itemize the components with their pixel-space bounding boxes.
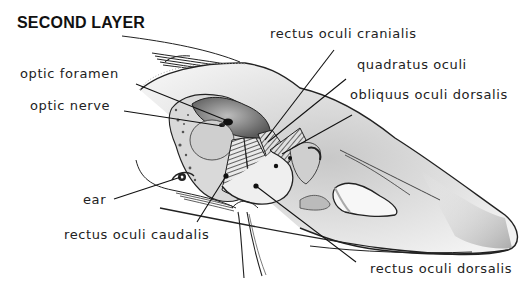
label-optic-nerve: optic nerve [30,99,110,112]
label-ear: ear [83,193,106,206]
label-rectus-oculi-dorsalis: rectus oculi dorsalis [370,262,512,275]
label-optic-foramen: optic foramen [20,67,119,80]
label-rectus-oculi-cranialis: rectus oculi cranialis [270,27,417,40]
label-quadratus-oculi: quadratus oculi [357,58,467,71]
figure-title: SECOND LAYER [17,14,145,32]
skull-illustration [0,0,531,297]
eyeball [190,120,234,160]
anatomical-figure: SECOND LAYER optic foramen optic nerve e… [0,0,531,297]
label-obliquus-oculi-dorsalis: obliquus oculi dorsalis [350,88,508,101]
label-rectus-oculi-caudalis: rectus oculi caudalis [64,228,209,241]
